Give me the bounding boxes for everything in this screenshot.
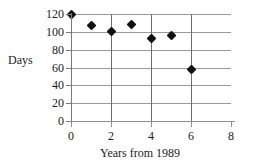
- data-point-marker: [146, 34, 156, 44]
- y-axis-tick: [66, 14, 71, 15]
- x-tick-label: 2: [96, 129, 126, 143]
- x-axis-tick: [71, 122, 72, 127]
- data-point-marker: [86, 21, 96, 31]
- y-axis-line: [71, 13, 72, 122]
- y-tick-label: 40: [18, 79, 64, 91]
- x-axis-tick: [111, 122, 112, 127]
- y-axis-tick: [66, 85, 71, 86]
- y-axis-tick: [66, 103, 71, 104]
- data-point-marker: [106, 27, 116, 37]
- x-tick-label: 6: [176, 129, 206, 143]
- y-axis-tick: [66, 50, 71, 51]
- gridline-vertical: [151, 14, 152, 121]
- y-axis-title: Days: [8, 53, 33, 67]
- x-axis-tick: [151, 122, 152, 127]
- x-axis-tick: [231, 122, 232, 127]
- x-tick-label: 0: [56, 129, 86, 143]
- x-tick-label: 8: [216, 129, 246, 143]
- data-point-marker: [126, 20, 136, 30]
- x-axis-tick: [191, 122, 192, 127]
- y-axis-tick: [66, 32, 71, 33]
- y-tick-label: 0: [18, 115, 64, 127]
- plot-area: [71, 14, 231, 121]
- data-point-marker: [186, 64, 196, 74]
- x-axis-title: Years from 1989: [0, 146, 280, 160]
- scatter-chart-figure: 120100806040200 Days Years from 1989 024…: [0, 0, 280, 166]
- y-axis-tick: [66, 68, 71, 69]
- y-tick-label: 20: [18, 97, 64, 109]
- y-tick-label: 100: [18, 26, 64, 38]
- y-tick-label: 120: [18, 8, 64, 20]
- x-tick-label: 4: [136, 129, 166, 143]
